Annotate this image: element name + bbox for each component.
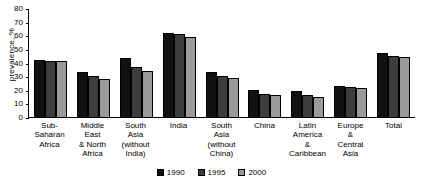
y-axis-tick: 50 — [1, 50, 29, 51]
y-axis-tick: 80 — [1, 9, 29, 10]
bar-group — [201, 9, 244, 117]
y-axis-tick-label: 30 — [14, 71, 23, 82]
y-axis-tick-label: 0 — [19, 112, 23, 123]
bar — [228, 78, 239, 118]
legend-label: 1995 — [208, 168, 226, 177]
x-axis-label: Sub-Saharan Africa — [28, 121, 71, 159]
bar-group — [115, 9, 158, 117]
bar — [259, 94, 270, 117]
x-axis-label: India — [157, 121, 200, 159]
y-axis-tick-label: 80 — [14, 3, 23, 14]
x-axis-label: Middle East & North Africa — [71, 121, 114, 159]
bar — [334, 86, 345, 117]
x-axis-label: Europe & Central Asia — [329, 121, 372, 159]
y-axis-tick-label: 70 — [14, 17, 23, 28]
x-axis-labels: Sub-Saharan AfricaMiddle East & North Af… — [28, 121, 415, 159]
x-axis-label: South Asia (without India) — [114, 121, 157, 159]
bar — [270, 95, 281, 117]
y-axis-tick: 40 — [1, 64, 29, 65]
bar — [345, 87, 356, 117]
y-axis-tick-mark — [26, 118, 29, 119]
chart-legend: 199019952000 — [0, 168, 423, 177]
bar — [34, 60, 45, 117]
plot-area: 80706050403020100 — [28, 9, 415, 118]
bar — [313, 97, 324, 117]
bar-group — [158, 9, 201, 117]
y-axis-tick-label: 40 — [14, 58, 23, 69]
bar — [291, 91, 302, 117]
x-axis-label: South Asia (without China) — [200, 121, 243, 159]
bar — [302, 95, 313, 117]
bar-group — [329, 9, 372, 117]
legend-swatch — [157, 169, 164, 176]
x-axis-label: Total — [372, 121, 415, 159]
y-axis-tick: 20 — [1, 91, 29, 92]
bar — [399, 57, 410, 117]
y-axis-tick: 10 — [1, 104, 29, 105]
bar — [45, 61, 56, 117]
x-axis-label: Latin America & Caribbean — [286, 121, 329, 159]
y-axis-tick: 70 — [1, 23, 29, 24]
bar-group — [243, 9, 286, 117]
bar — [388, 56, 399, 117]
bar — [120, 58, 131, 117]
legend-swatch — [238, 169, 245, 176]
bar — [377, 53, 388, 117]
bar-group — [286, 9, 329, 117]
bar — [99, 79, 110, 117]
y-axis-tick: 0 — [1, 118, 29, 119]
y-axis-tick-label: 50 — [14, 44, 23, 55]
bar-group — [372, 9, 415, 117]
bar-groups — [29, 9, 415, 117]
bar — [131, 67, 142, 117]
bar — [77, 72, 88, 117]
bar — [174, 34, 185, 117]
bar — [217, 76, 228, 117]
y-axis-tick: 60 — [1, 36, 29, 37]
bar — [88, 76, 99, 117]
y-axis-tick-label: 20 — [14, 85, 23, 96]
bar — [163, 33, 174, 117]
bar — [56, 61, 67, 117]
bar — [356, 88, 367, 117]
y-axis-tick-label: 10 — [14, 98, 23, 109]
legend-swatch — [198, 169, 205, 176]
legend-label: 1990 — [167, 168, 185, 177]
bar-group — [72, 9, 115, 117]
bar — [248, 90, 259, 117]
x-axis-label: China — [243, 121, 286, 159]
bar — [185, 37, 196, 117]
legend-label: 2000 — [248, 168, 266, 177]
y-axis-tick: 30 — [1, 77, 29, 78]
legend-item: 1990 — [157, 168, 185, 177]
bar — [206, 72, 217, 117]
bar-chart: prevalence, % 80706050403020100 Sub-Saha… — [0, 0, 423, 184]
y-axis-tick-label: 60 — [14, 30, 23, 41]
bar-group — [29, 9, 72, 117]
legend-item: 2000 — [238, 168, 266, 177]
bar — [142, 71, 153, 117]
legend-item: 1995 — [198, 168, 226, 177]
